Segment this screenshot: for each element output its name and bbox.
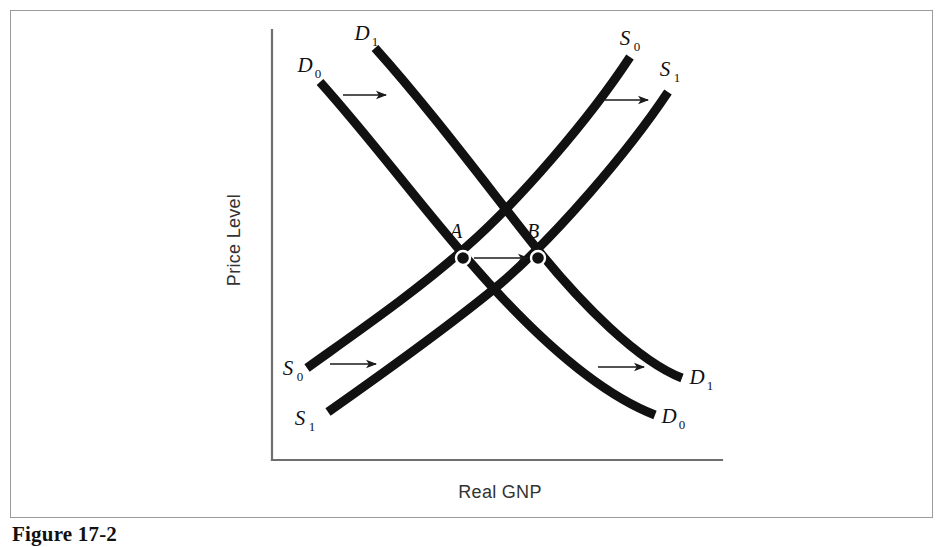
curve-label-d1-top-subscript: 1 (372, 34, 379, 49)
curve-label-d0-top: D 0 (296, 53, 321, 81)
curve-label-d1-top-letter: D (353, 21, 369, 45)
curve-label-s0-top-subscript: 0 (634, 39, 641, 54)
curve-label-d0-top-subscript: 0 (315, 66, 322, 81)
curve-label-d0-bottom-letter: D (660, 404, 676, 428)
figure-caption: Figure 17-2 (12, 522, 117, 547)
curve-label-d0-top-letter: D (296, 53, 312, 77)
curve-label-s0-bottom-letter: S (283, 356, 294, 380)
curve-label-s1-top: S 1 (660, 57, 681, 85)
curve-supply-s0 (307, 57, 630, 368)
curve-label-d1-bottom-subscript: 1 (707, 378, 714, 393)
curve-label-s0-bottom-subscript: 0 (297, 369, 304, 384)
curve-label-s0-bottom: S 0 (283, 356, 304, 384)
curve-label-d0-bottom: D 0 (660, 404, 685, 432)
equilibrium-dot-a (456, 251, 470, 265)
curve-label-s1-bottom-subscript: 1 (309, 419, 316, 434)
curve-label-d1-top: D 1 (353, 21, 378, 49)
curves-group (307, 48, 682, 415)
curve-supply-s1 (328, 92, 668, 412)
curve-label-s0-top: S 0 (620, 26, 641, 54)
curve-label-s1-bottom: S 1 (295, 406, 316, 434)
curve-label-s1-top-letter: S (660, 57, 671, 81)
curve-demand-d0 (320, 82, 655, 415)
curve-label-d1-bottom: D 1 (688, 365, 713, 393)
y-axis-title: Price Level (224, 194, 244, 286)
equilibrium-dot-b (531, 251, 545, 265)
chart-axes (272, 30, 722, 460)
curve-label-d1-bottom-letter: D (688, 365, 704, 389)
curve-label-s0-top-letter: S (620, 26, 631, 50)
curve-label-s1-top-subscript: 1 (674, 70, 681, 85)
curve-label-s1-bottom-letter: S (295, 406, 306, 430)
point-label-b: B (527, 220, 539, 242)
point-label-a: A (448, 220, 463, 242)
curve-label-d0-bottom-subscript: 0 (679, 417, 686, 432)
x-axis-title: Real GNP (458, 482, 541, 502)
